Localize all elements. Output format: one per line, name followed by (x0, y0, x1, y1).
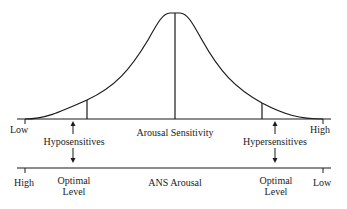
hypersensitives-label: Hypersensitives (237, 136, 313, 147)
bottom-axis-title: ANS Arousal (135, 177, 215, 188)
hypersensitives-up-arrow-icon (273, 121, 278, 134)
hyposensitives-down-arrow-icon (71, 148, 76, 163)
top-axis-low-label: Low (10, 124, 28, 135)
hyposensitives-label: Hyposensitives (38, 136, 110, 147)
left-optimal-level-line2: Level (54, 186, 94, 197)
left-optimal-level-line1: Optimal (54, 175, 94, 186)
hyposensitives-up-arrow-icon (71, 121, 76, 134)
bottom-axis-high-label: High (14, 177, 34, 188)
bell-curve (25, 13, 323, 119)
right-optimal-level-line2: Level (256, 186, 296, 197)
right-optimal-level-line1: Optimal (256, 175, 296, 186)
top-axis-title: Arousal Sensitivity (130, 127, 220, 138)
top-axis-high-label: High (310, 124, 330, 135)
hypersensitives-down-arrow-icon (273, 148, 278, 163)
bottom-axis-low-label: Low (313, 177, 331, 188)
